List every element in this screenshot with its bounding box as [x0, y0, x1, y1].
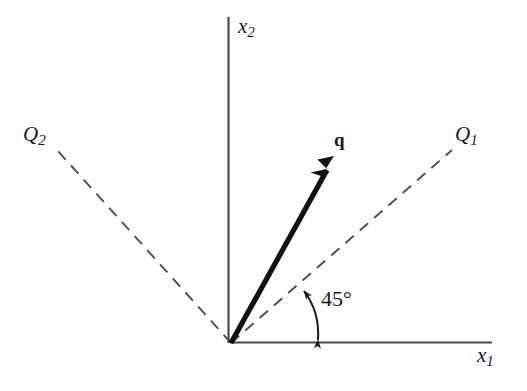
axis-label-x1-sub: 1: [486, 353, 494, 369]
q1-axis-dashed-line: [231, 150, 452, 343]
q2-axis-dashed-line: [57, 150, 231, 343]
axis-label-x2-sub: 2: [247, 24, 255, 40]
axis-label-x1-text: x: [477, 343, 486, 367]
line-label-q1-text: Q: [455, 122, 470, 146]
line-label-q2-text: Q: [23, 122, 38, 146]
angle-label-45: 45°: [321, 288, 352, 310]
diagram-canvas: [0, 0, 527, 391]
axis-label-x1: x1: [477, 345, 494, 369]
angle-arc: [304, 291, 318, 340]
line-label-q1: Q1: [455, 124, 478, 148]
axis-label-x2: x2: [238, 16, 255, 40]
vector-diagram: x2 x1 Q1 Q2 q 45°: [0, 0, 527, 391]
line-label-q2: Q2: [23, 124, 46, 148]
line-label-q2-sub: 2: [38, 132, 46, 148]
vector-label-q: q: [334, 130, 345, 149]
q-vector-shaft: [231, 170, 327, 343]
axis-label-x2-text: x: [238, 14, 247, 38]
line-label-q1-sub: 1: [470, 132, 478, 148]
